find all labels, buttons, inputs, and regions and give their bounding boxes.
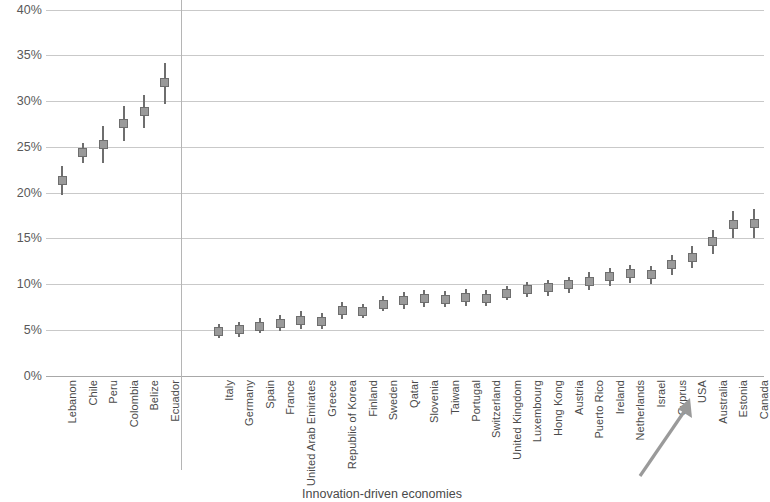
y-tick-label: 0% — [0, 369, 42, 383]
point-marker — [255, 322, 264, 331]
x-tick-label: Finland — [367, 380, 379, 417]
point-marker — [647, 270, 656, 279]
y-tick-label: 15% — [0, 231, 42, 245]
y-tick-label: 20% — [0, 186, 42, 200]
x-tick-label: Luxembourg — [531, 380, 543, 442]
x-tick-label: Republic of Korea — [346, 380, 358, 469]
point-marker — [296, 316, 305, 325]
x-tick-label: Sweden — [387, 380, 399, 420]
point-marker — [317, 317, 326, 326]
x-tick-label: France — [284, 380, 296, 415]
x-tick-label: Switzerland — [490, 380, 502, 438]
gridline-25% — [46, 147, 764, 148]
x-tick-label: Canada — [758, 380, 770, 419]
x-tick-label: Ecuador — [169, 380, 181, 422]
y-tick-label: 25% — [0, 140, 42, 154]
point-marker — [564, 280, 573, 289]
point-marker — [420, 294, 429, 303]
point-marker — [99, 140, 108, 149]
point-marker — [667, 260, 676, 269]
point-marker — [688, 253, 697, 262]
x-tick-label: Slovenia — [428, 380, 440, 423]
x-tick-label: USA — [696, 380, 708, 403]
point-marker — [482, 294, 491, 303]
point-marker — [358, 307, 367, 316]
x-tick-label: Taiwan — [449, 380, 461, 415]
point-marker — [78, 148, 87, 157]
point-marker — [235, 325, 244, 334]
x-tick-label: Peru — [107, 380, 119, 404]
x-tick-label: Hong Kong — [552, 380, 564, 436]
point-marker — [502, 289, 511, 298]
point-marker — [585, 277, 594, 286]
x-tick-label: Australia — [717, 380, 729, 424]
gridline-15% — [46, 238, 764, 239]
x-tick-label: United Arab Emirates — [305, 380, 317, 486]
x-tick-label: Qatar — [408, 380, 420, 408]
x-tick-label: Lebanon — [66, 380, 78, 424]
plot-area — [46, 0, 764, 376]
point-marker — [140, 107, 149, 116]
point-marker — [399, 296, 408, 305]
point-marker — [119, 119, 128, 128]
x-tick-label: Greece — [326, 380, 338, 417]
x-tick-label: Cyprus — [676, 380, 688, 415]
x-tick-label: Chile — [87, 380, 99, 406]
x-tick-label: Germany — [243, 380, 255, 426]
gridline-40% — [46, 10, 764, 11]
gridline-10% — [46, 284, 764, 285]
point-marker — [379, 300, 388, 309]
point-marker — [708, 237, 717, 246]
gridline-0% — [46, 376, 764, 377]
x-tick-label: Austria — [573, 380, 585, 415]
gridline-35% — [46, 55, 764, 56]
gridline-20% — [46, 193, 764, 194]
point-marker — [626, 269, 635, 278]
x-tick-label: United Kingdom — [511, 380, 523, 460]
x-tick-label: Colombia — [128, 380, 140, 427]
point-marker — [461, 293, 470, 302]
x-tick-label: Israel — [655, 380, 667, 408]
x-tick-label: Portugal — [470, 380, 482, 422]
point-marker — [441, 295, 450, 304]
point-marker — [544, 283, 553, 292]
point-marker — [729, 220, 738, 229]
x-axis-title: Innovation-driven economies — [0, 487, 764, 501]
x-axis: LebanonChilePeruColombiaBelizeEcuadorIta… — [46, 380, 764, 502]
x-tick-label: Puerto Rico — [593, 380, 605, 439]
y-axis: 0%5%10%15%20%25%30%35%40% — [0, 0, 42, 502]
point-marker — [276, 319, 285, 328]
point-marker — [338, 306, 347, 315]
x-tick-label: Spain — [264, 380, 276, 409]
point-marker — [750, 219, 759, 228]
point-marker — [523, 285, 532, 294]
point-marker — [214, 327, 223, 336]
gridline-30% — [46, 101, 764, 102]
x-tick-label: Italy — [223, 380, 235, 401]
x-tick-label: Ireland — [614, 380, 626, 414]
point-marker — [58, 176, 67, 185]
y-tick-label: 5% — [0, 323, 42, 337]
y-tick-label: 35% — [0, 48, 42, 62]
y-tick-label: 10% — [0, 277, 42, 291]
x-tick-label: Estonia — [737, 380, 749, 417]
point-marker — [605, 272, 614, 281]
x-tick-label: Belize — [148, 380, 160, 411]
y-tick-label: 30% — [0, 94, 42, 108]
y-tick-label: 40% — [0, 3, 42, 17]
gridline-5% — [46, 330, 764, 331]
x-tick-label: Netherlands — [634, 380, 646, 440]
point-marker — [160, 78, 169, 87]
